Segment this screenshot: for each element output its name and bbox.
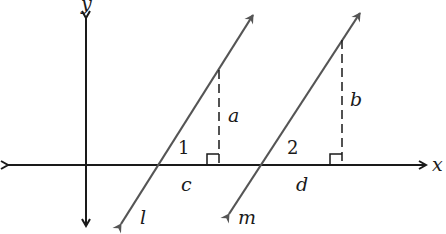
line-l-label: l bbox=[140, 206, 146, 228]
line-m-label: m bbox=[238, 206, 256, 228]
right-angle-marker-a bbox=[207, 154, 219, 165]
right-angle-marker-b bbox=[330, 154, 342, 165]
angle-1-label: 1 bbox=[178, 137, 189, 158]
y-axis-label: y bbox=[80, 0, 92, 14]
segment-b-label: b bbox=[350, 88, 362, 110]
segment-a-label: a bbox=[228, 104, 239, 126]
x-axis-label: x bbox=[432, 153, 443, 175]
segment-c-label: c bbox=[181, 173, 192, 195]
segment-b-dashed bbox=[330, 40, 342, 165]
parallel-lines-slope-diagram: x y l m a b 1 2 c d bbox=[0, 0, 446, 234]
angle-2-label: 2 bbox=[287, 137, 298, 158]
segment-d-label: d bbox=[296, 173, 308, 195]
line-m bbox=[229, 13, 360, 214]
